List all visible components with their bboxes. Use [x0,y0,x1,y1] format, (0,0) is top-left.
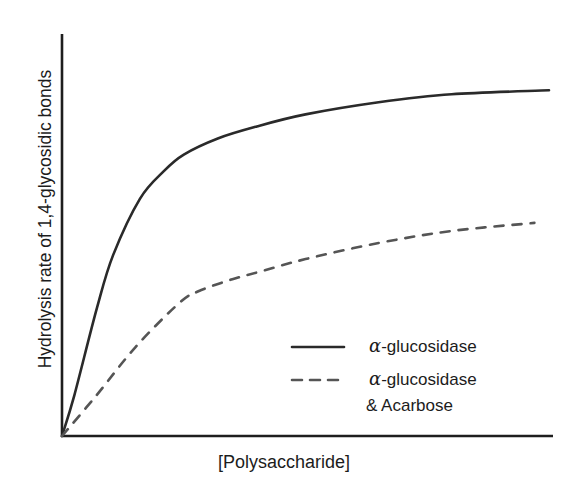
alpha-symbol: α [369,335,381,356]
series-alpha-glucosidase-acarbose-curve [62,223,534,436]
x-axis-label: [Polysaccharide] [218,452,350,473]
legend-entry-alpha-glucosidase-acarbose: α-glucosidase [369,368,477,390]
legend-label: -glucosidase [381,370,476,389]
legend-entry-alpha-glucosidase: α-glucosidase [369,335,477,357]
legend-label: -glucosidase [381,337,476,356]
chart-canvas [0,0,578,499]
legend-entry-acarbose-line2: & Acarbose [366,396,453,416]
y-axis-label: Hydrolysis rate of 1,4-glycosidic bonds [35,70,56,369]
alpha-symbol: α [369,368,381,389]
